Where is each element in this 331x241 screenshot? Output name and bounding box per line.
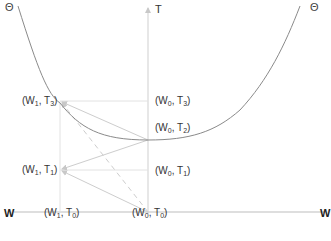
point-label-w0-t1: (W0, T1) — [155, 165, 190, 180]
theta-label-left: Θ — [5, 1, 14, 13]
theta-label-right: Θ — [310, 1, 319, 13]
point-label-w0-t3: (W0, T3) — [155, 95, 190, 110]
point-label-w1-t3: (W1, T3) — [22, 95, 57, 110]
point-label-w0-t2: (W0, T2) — [155, 122, 190, 137]
w-axis-label-left: W — [4, 207, 14, 219]
t-axis-label: T — [155, 3, 162, 15]
point-label-w0-t0: (W0, T0) — [132, 207, 167, 222]
point-label-w1-t1: (W1, T1) — [22, 164, 57, 179]
diagram-canvas — [0, 0, 331, 241]
w-axis-label-right: W — [320, 207, 330, 219]
point-label-w1-t0: (W1, T0) — [44, 207, 79, 222]
